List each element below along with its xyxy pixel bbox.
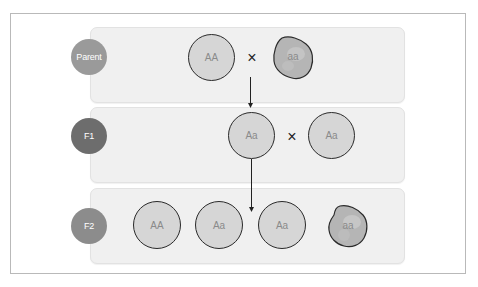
- f2-row-label: F2: [71, 208, 107, 244]
- f2-genotype-Aa-2: Aa: [258, 201, 306, 249]
- f1-genotype-Aa-2: Aa: [308, 112, 355, 159]
- parent-row-label: Parent: [71, 39, 107, 75]
- f2-genotype-aa-label: aa: [342, 220, 353, 231]
- parent-genotype-aa-label: aa: [287, 51, 298, 62]
- f1-row-label: F1: [71, 118, 107, 154]
- cross-symbol-f1: ×: [287, 129, 296, 145]
- f2-genotype-Aa-1: Aa: [195, 201, 243, 249]
- cross-symbol-parent: ×: [247, 50, 256, 66]
- f2-genotype-AA: AA: [133, 201, 181, 249]
- parent-genotype-AA: AA: [188, 34, 235, 81]
- f1-genotype-Aa-1: Aa: [228, 112, 275, 159]
